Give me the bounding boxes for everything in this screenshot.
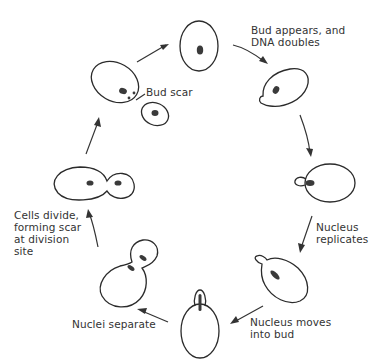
label-nucleus-replicates: Nucleus replicates: [316, 221, 368, 245]
label-bud-appears: Bud appears, and DNA doubles: [251, 24, 345, 48]
label-nucleus-moves: Nucleus moves into bud: [250, 316, 331, 340]
stage-nucleus-moves: [255, 255, 307, 302]
stage-nucleus-in-bud: [181, 290, 219, 358]
stage-nuclei-separate: [100, 240, 157, 307]
bud-scar-mark: [128, 97, 131, 100]
label-bud-scar: Bud scar: [146, 86, 193, 98]
budding-cycle-diagram: [0, 0, 384, 364]
label-nuclei-separate: Nuclei separate: [72, 318, 156, 330]
stage-mother-cell: [180, 21, 218, 71]
stage-cells-divide: [54, 167, 134, 200]
stage-nucleus-replicates: [295, 164, 355, 202]
nucleus-icon: [197, 46, 203, 55]
label-cells-divide: Cells divide, forming scar at division s…: [14, 209, 81, 257]
arrowhead-icon: [160, 44, 169, 50]
stage-bud-appears: [260, 69, 309, 107]
